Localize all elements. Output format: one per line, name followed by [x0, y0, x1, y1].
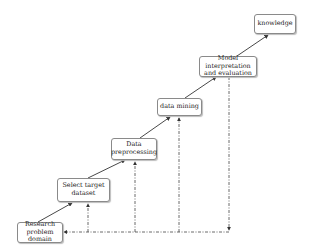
model-label-line2: and evaluation: [204, 69, 252, 77]
arrow-select-to-preprocess: [88, 160, 125, 178]
select-label-line2: dataset: [72, 189, 96, 197]
step-select-target-dataset: Select targetdataset: [57, 178, 110, 202]
step-knowledge: knowledge: [254, 14, 296, 34]
connector-lines: [0, 0, 313, 252]
knowledge-label: knowledge: [257, 20, 292, 28]
arrow-mining-to-model: [185, 77, 216, 98]
step-data-mining: data mining: [157, 98, 202, 116]
step-data-preprocessing: Datapreprocessing: [111, 138, 157, 160]
research-label-line2: problem domain: [27, 228, 54, 244]
arrow-preprocess-to-mining: [140, 117, 170, 138]
arrow-model-to-knowledge: [237, 35, 268, 56]
step-research-problem-domain: Researchproblem domain: [17, 222, 63, 243]
step-model-interpretation: Model interpretationand evaluation: [199, 56, 257, 77]
preprocess-label-line2: preprocessing: [111, 148, 157, 156]
mining-label: data mining: [160, 103, 199, 111]
model-label-line1: Model interpretation: [205, 54, 250, 70]
